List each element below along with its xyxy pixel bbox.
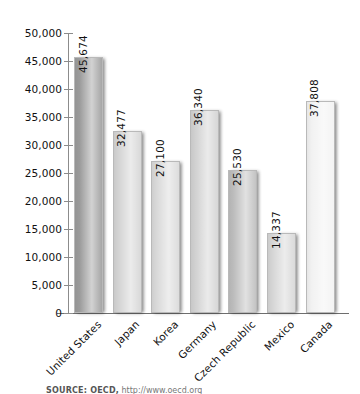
y-axis-tick — [64, 117, 73, 118]
bar-chart: 05,00010,00015,00020,00025,00030,00035,0… — [0, 0, 360, 394]
y-axis-tick — [64, 61, 73, 62]
x-axis-line — [57, 313, 349, 314]
y-axis-tick — [64, 145, 73, 146]
y-axis-tick — [64, 257, 73, 258]
y-axis-tick — [64, 285, 73, 286]
plot-area: 05,00010,00015,00020,00025,00030,00035,0… — [0, 0, 360, 394]
x-axis-category-label: Korea — [150, 318, 180, 348]
y-axis-tick — [64, 201, 73, 202]
x-axis-category-label: Canada — [297, 318, 334, 355]
y-axis-label: 20,000 — [25, 195, 62, 207]
bar: 14,337 — [267, 233, 296, 313]
y-axis-label: 30,000 — [25, 139, 62, 151]
x-axis-category-label: United States — [43, 318, 103, 378]
y-axis-label: 50,000 — [25, 27, 62, 39]
y-axis-tick — [64, 89, 73, 90]
y-axis-tick — [64, 229, 73, 230]
y-axis-tick — [64, 33, 73, 34]
bar: 37,808 — [306, 101, 335, 313]
y-axis-tick — [64, 313, 73, 314]
y-axis-label: 25,000 — [25, 167, 62, 179]
y-axis-label: 40,000 — [25, 83, 62, 95]
bar: 32,477 — [113, 131, 142, 313]
bar: 45,674 — [74, 57, 103, 313]
bar: 25,530 — [228, 170, 257, 313]
x-axis-category-label: Japan — [112, 318, 142, 348]
bar: 27,100 — [151, 161, 180, 313]
y-axis-label: 15,000 — [25, 223, 62, 235]
source-label: SOURCE: OECD, — [46, 386, 119, 394]
bar: 36,340 — [190, 110, 219, 314]
y-axis-label: 0 — [55, 307, 62, 319]
y-axis-label: 10,000 — [25, 251, 62, 263]
y-axis-tick — [64, 173, 73, 174]
x-axis-category-label: Mexico — [261, 318, 296, 353]
source-url: http://www.oecd.org — [122, 386, 203, 394]
y-axis-label: 45,000 — [25, 55, 62, 67]
source-note: SOURCE: OECD, http://www.oecd.org — [46, 386, 202, 394]
y-axis-label: 5,000 — [31, 279, 62, 291]
y-axis-label: 35,000 — [25, 111, 62, 123]
